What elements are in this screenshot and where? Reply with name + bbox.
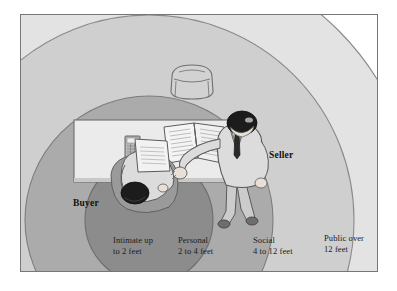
label-zone-personal-line2: 2 to 4 feet — [178, 246, 213, 257]
label-zone-social: Social 4 to 12 feet — [253, 235, 293, 256]
label-zone-intimate-line2: to 2 feet — [113, 246, 153, 257]
proxemics-diagram: Seller Buyer Intimate up to 2 feet Perso… — [0, 0, 397, 291]
label-zone-intimate: Intimate up to 2 feet — [113, 235, 153, 256]
label-seller-text: Seller — [269, 150, 293, 160]
label-seller: Seller — [269, 150, 293, 160]
label-zone-public-line2: 12 feet — [324, 244, 364, 255]
label-zone-personal-line1: Personal — [178, 235, 213, 246]
label-zone-intimate-line1: Intimate up — [113, 235, 153, 246]
diagram-frame: Seller Buyer Intimate up to 2 feet Perso… — [20, 14, 378, 272]
label-buyer: Buyer — [73, 198, 99, 208]
label-zone-personal: Personal 2 to 4 feet — [178, 235, 213, 256]
label-buyer-text: Buyer — [73, 198, 99, 208]
label-zone-social-line2: 4 to 12 feet — [253, 246, 293, 257]
label-zone-social-line1: Social — [253, 235, 293, 246]
label-zone-public-line1: Public over — [324, 233, 364, 244]
label-zone-public: Public over 12 feet — [324, 233, 364, 254]
